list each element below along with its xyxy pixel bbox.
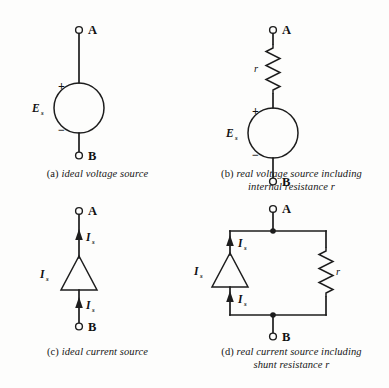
panel-ideal-voltage-source: A B + − E s (a) ideal voltage source [0,0,195,195]
source-label: E [31,102,40,114]
source-label: I [39,268,45,280]
current-label-bottom: I [85,299,91,311]
panel-b-caption-text: real voltage source including [236,168,361,179]
terminal-a-node [270,27,277,34]
terminal-b-node [76,323,83,330]
current-arrow-top [75,229,83,240]
current-arrow-top [226,235,234,246]
source-label: E [225,127,234,139]
current-arrow-bottom [226,291,234,302]
polarity-minus-label: − [252,148,259,162]
panel-b-diagram: A B r + − E s [194,0,389,165]
panel-c-tag: (c) [47,346,62,357]
terminal-a-node [270,206,277,213]
terminal-b-node [270,333,277,340]
current-arrow-bottom [75,297,83,308]
terminal-b-label: B [282,330,290,344]
source-subscript: s [45,275,49,283]
panel-d-caption-text-2: shunt resistance r [253,359,329,370]
panel-b-tag: (b) [221,168,236,179]
panel-real-current-source: A B I s I s I s r (d) real current sourc… [194,193,389,388]
source-subscript: s [199,272,203,280]
panel-a-caption-text: ideal voltage source [61,168,148,179]
terminal-a-node [76,27,83,34]
panel-a-caption: (a) ideal voltage source [0,167,195,180]
source-label: I [193,265,199,277]
polarity-plus-label: + [58,79,65,93]
terminal-a-label: A [88,204,97,218]
current-source-triangle [61,256,97,290]
current-subscript-top: s [91,238,95,246]
panel-d-diagram: A B I s I s I s r [194,193,389,343]
terminal-a-label: A [282,202,291,216]
polarity-plus-label: + [252,104,259,118]
shunt-resistor [319,247,333,297]
panel-c-caption: (c) ideal current source [0,345,195,358]
panel-real-voltage-source: A B r + − E s (b) real voltage source in… [194,0,389,195]
terminal-a-label: A [282,23,291,37]
current-subscript-bottom: s [91,306,95,314]
panel-b-caption: (b) real voltage source including intern… [194,167,389,193]
polarity-minus-label: − [58,123,65,137]
current-label-top: I [85,231,91,243]
terminal-a-node [76,208,83,215]
panel-d-caption-text: real current source including [237,346,362,357]
terminal-b-label: B [88,149,96,163]
current-label-bottom: I [237,293,243,305]
current-label-top: I [237,237,243,249]
panel-ideal-current-source: A B I s I s I s (c) ideal current source [0,193,195,388]
current-subscript-top: s [243,244,247,252]
resistor-label: r [254,63,259,74]
panel-b-caption-text-2: internal resistance r [248,181,335,192]
terminal-b-node [76,152,83,159]
current-source-triangle [212,253,248,287]
series-resistor [266,44,280,94]
resistor-label: r [336,266,341,277]
panel-d-tag: (d) [221,346,236,357]
panel-a-tag: (a) [47,168,62,179]
circuit-figure: A B + − E s (a) ideal voltage source A B [0,0,389,388]
panel-a-diagram: A B + − E s [0,0,195,165]
panel-c-diagram: A B I s I s I s [0,193,195,343]
terminal-a-label: A [88,23,97,37]
source-subscript: s [234,134,238,142]
terminal-b-label: B [88,320,96,334]
panel-c-caption-text: ideal current source [62,346,148,357]
source-subscript: s [40,109,44,117]
current-subscript-bottom: s [243,300,247,308]
panel-d-caption: (d) real current source including shunt … [194,345,389,371]
